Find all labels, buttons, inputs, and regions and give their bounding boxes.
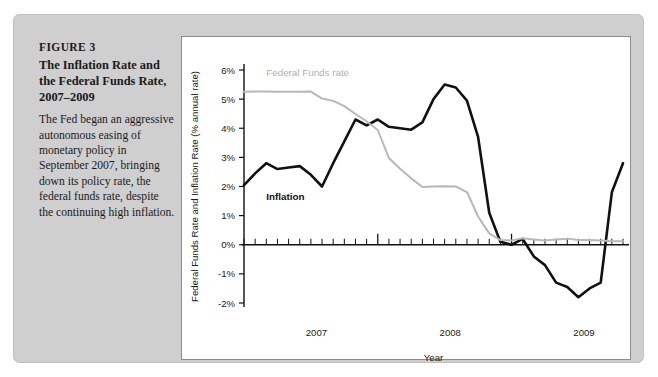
figure-title: The Inflation Rate and the Federal Funds… xyxy=(39,57,175,105)
y-tick-label: 2% xyxy=(221,181,235,192)
line-chart: -2%-1%0%1%2%3%4%5%6%200720082009YearFede… xyxy=(182,37,632,361)
figure-number: FIGURE 3 xyxy=(39,40,175,55)
y-tick-label: 0% xyxy=(221,239,235,250)
caption-column: FIGURE 3 The Inflation Rate and the Fede… xyxy=(39,40,175,360)
series-label-inflation: Inflation xyxy=(266,191,304,202)
figure-caption-text: The Fed began an aggressive autonomous e… xyxy=(39,112,175,220)
series-label-federal-funds-rate: Federal Funds rate xyxy=(266,67,349,78)
y-tick-label: 1% xyxy=(221,210,235,221)
y-tick-label: -1% xyxy=(218,268,236,279)
y-tick-label: 4% xyxy=(221,123,235,134)
y-tick-label: -2% xyxy=(218,298,236,309)
chart-render-root: -2%-1%0%1%2%3%4%5%6%200720082009YearFede… xyxy=(189,64,629,361)
x-tick-label: 2007 xyxy=(306,327,327,338)
y-tick-label: 3% xyxy=(221,152,235,163)
figure-screenshot: FIGURE 3 The Inflation Rate and the Fede… xyxy=(0,0,658,377)
y-tick-label: 6% xyxy=(221,65,235,76)
x-axis-title: Year xyxy=(424,352,444,361)
x-tick-label: 2009 xyxy=(573,327,594,338)
plot-panel: -2%-1%0%1%2%3%4%5%6%200720082009YearFede… xyxy=(181,36,631,360)
x-tick-label: 2008 xyxy=(440,327,461,338)
figure-card: FIGURE 3 The Inflation Rate and the Fede… xyxy=(13,14,644,363)
y-tick-label: 5% xyxy=(221,94,235,105)
y-axis-title: Federal Funds Rate and Inflation Rate (%… xyxy=(189,71,200,302)
